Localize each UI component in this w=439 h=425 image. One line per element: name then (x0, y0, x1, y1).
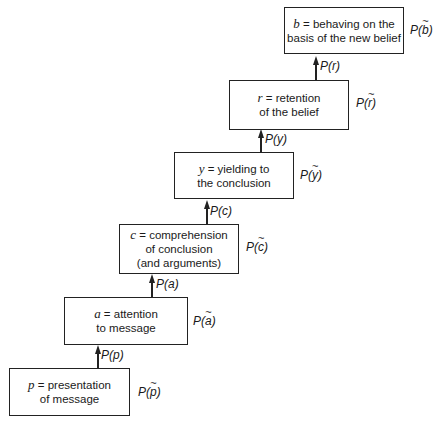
edge-label-p: P(p) (101, 348, 124, 362)
arrow-up-icon (258, 129, 264, 138)
stage-subtitle-2: (and arguments) (137, 256, 221, 270)
stage-title: b = behaving on the (293, 17, 394, 31)
stage-box-retention: r = retention of the belief (229, 80, 349, 130)
prob-not-yielding: P(y) (300, 168, 322, 182)
stage-subtitle: of the belief (259, 105, 318, 119)
stage-box-presentation: p = presentation of message (9, 368, 130, 416)
edge-label-c: P(c) (210, 204, 232, 218)
prob-not-presentation: P(p) (138, 385, 161, 399)
stage-title: p = presentation (28, 378, 111, 392)
stage-subtitle: of message (40, 392, 99, 406)
prob-not-comprehension: P(c) (246, 240, 268, 254)
stage-box-yielding: y = yielding to the conclusion (174, 152, 294, 199)
stage-title: a = attention (94, 307, 158, 321)
edge-label-a: P(a) (156, 277, 179, 291)
stage-box-comprehension: c = comprehension of conclusion (and arg… (119, 224, 239, 274)
stage-title: c = comprehension (130, 228, 228, 242)
stage-subtitle: the conclusion (197, 176, 271, 190)
edge-label-r: P(r) (320, 59, 340, 73)
stage-box-attention: a = attention to message (64, 297, 188, 345)
prob-not-attention: P(a) (193, 314, 216, 328)
edge-label-y: P(y) (265, 132, 287, 146)
prob-not-behaving: P(b) (410, 23, 433, 37)
arrow-up-icon (313, 56, 319, 65)
stage-subtitle: of conclusion (145, 242, 212, 256)
stage-title: y = yielding to (199, 162, 270, 176)
arrow-up-icon (149, 274, 155, 283)
stage-box-behaving: b = behaving on the basis of the new bel… (284, 7, 404, 54)
stage-subtitle: basis of the new belief (287, 31, 401, 45)
stage-title: r = retention (258, 91, 321, 105)
prob-not-retention: P(r) (356, 96, 376, 110)
stage-subtitle: to message (96, 321, 155, 335)
